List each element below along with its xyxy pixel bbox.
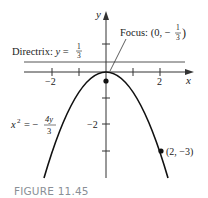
point-label: (2, −3) <box>166 146 193 158</box>
focus-frac-den: 3 <box>176 33 180 42</box>
equation-frac-num: 4y <box>45 114 53 124</box>
directrix-frac-num: 1 <box>77 42 81 51</box>
focus-close-paren: ) <box>182 26 186 40</box>
equation-frac-den: 3 <box>47 126 51 136</box>
point-2-neg3 <box>158 148 163 153</box>
focus-label: Focus: (0, − <box>120 27 171 39</box>
parabola-diagram: y x −2 2 −2 Directrix: y = 1 3 Focus: (0… <box>0 0 208 198</box>
y-axis-label: y <box>95 8 101 20</box>
y-tick-label-neg2: −2 <box>87 119 98 130</box>
equation-eq: = − <box>24 119 39 130</box>
x-tick-label-2: 2 <box>157 76 162 87</box>
equation-exponent: 2 <box>17 117 21 125</box>
equation-lhs: x <box>10 119 16 130</box>
focus-frac-num: 1 <box>176 23 180 32</box>
focus-leader-line <box>110 39 126 71</box>
y-axis-arrow-icon <box>103 11 109 20</box>
x-axis-label: x <box>185 74 191 86</box>
directrix-frac-den: 3 <box>77 51 81 60</box>
directrix-label: Directrix: y = <box>12 46 69 57</box>
focus-point <box>103 78 108 83</box>
x-tick-label-neg2: −2 <box>45 76 56 87</box>
figure-caption: FIGURE 11.45 <box>14 185 89 197</box>
figure-11-45: y x −2 2 −2 Directrix: y = 1 3 Focus: (0… <box>0 0 208 198</box>
